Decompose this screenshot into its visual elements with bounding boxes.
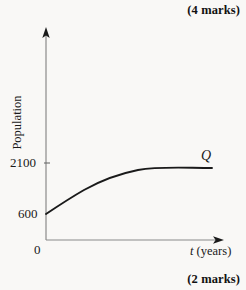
curve-label-q: Q (201, 148, 211, 164)
graph-canvas (0, 20, 246, 270)
marks-annotation-bottom: (2 marks) (187, 272, 240, 287)
figure-page: (4 marks) Population 2100 600 0 t (years… (0, 0, 246, 290)
population-graph-figure: Population 2100 600 0 t (years) Q (0, 20, 246, 270)
marks-annotation-top: (4 marks) (187, 3, 240, 18)
y-tick-label-600: 600 (18, 206, 38, 222)
population-curve (46, 168, 212, 215)
x-axis-label: t (years) (190, 244, 231, 259)
y-tick-label-2100: 2100 (10, 155, 36, 171)
y-axis-label: Population (10, 83, 25, 163)
origin-label: 0 (34, 242, 41, 258)
x-axis-label-unit: (years) (193, 244, 231, 258)
